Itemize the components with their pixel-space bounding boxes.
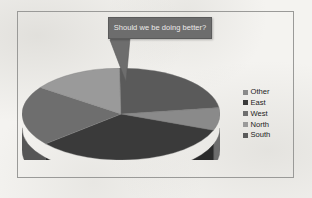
legend-item-other[interactable]: Other [243,87,291,97]
legend-item-west[interactable]: West [243,109,291,119]
legend-label: South [251,130,271,140]
pie-top-face [22,68,220,160]
legend-swatch-icon [243,100,248,105]
legend-label: North [251,120,270,130]
callout-box[interactable]: Should we be doing better? [108,17,212,39]
legend-swatch-icon [243,111,248,116]
legend-item-north[interactable]: North [243,119,291,129]
legend-label: Other [251,87,270,97]
legend-label: West [251,109,268,119]
chart-canvas: Should we be doing better? Other East We… [0,0,312,198]
callout-label: Should we be doing better? [109,18,211,38]
legend-label: East [251,98,266,108]
legend-swatch-icon [243,122,248,127]
pie-chart [22,68,232,173]
legend-item-east[interactable]: East [243,98,291,108]
legend-swatch-icon [243,90,248,95]
chart-legend: Other East West North South [243,87,291,141]
legend-item-south[interactable]: South [243,130,291,140]
legend-swatch-icon [243,133,248,138]
